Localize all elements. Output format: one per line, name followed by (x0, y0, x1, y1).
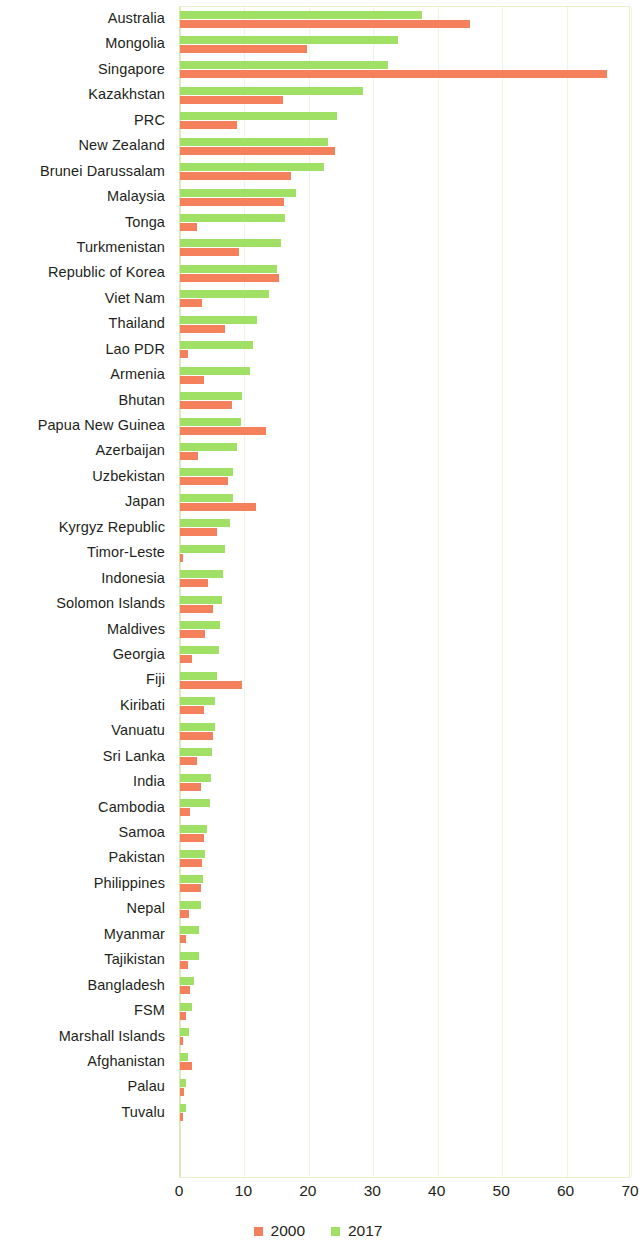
bar-2000 (180, 96, 283, 104)
bar-row (180, 618, 629, 643)
bar-2017 (180, 901, 201, 909)
bar-row (180, 414, 629, 439)
bar-2017 (180, 1003, 192, 1011)
bar-2000 (180, 1012, 186, 1020)
bar-2017 (180, 316, 257, 324)
bar-2017 (180, 952, 199, 960)
bar-2017 (180, 697, 215, 705)
x-tick-label: 20 (299, 1182, 316, 1200)
bar-2017 (180, 748, 212, 756)
legend-item-2000[interactable]: 2000 (254, 1222, 305, 1240)
bar-2017 (180, 36, 398, 44)
legend-label: 2017 (348, 1222, 382, 1240)
legend-item-2017[interactable]: 2017 (331, 1222, 382, 1240)
bar-row (180, 872, 629, 897)
bar-2017 (180, 596, 222, 604)
x-tick-label: 50 (493, 1182, 510, 1200)
bar-row (180, 567, 629, 592)
bar-2017 (180, 875, 203, 883)
bar-2017 (180, 621, 220, 629)
bar-2000 (180, 630, 205, 638)
bar-2017 (180, 468, 233, 476)
bar-2017 (180, 723, 215, 731)
category-label: Solomon Islands (0, 591, 172, 616)
x-tick-label: 60 (557, 1182, 574, 1200)
bar-2000 (180, 554, 183, 562)
category-label: Uzbekistan (0, 464, 172, 489)
square-swatch-2000 (254, 1227, 263, 1236)
gridline-70 (631, 7, 632, 1177)
bar-2000 (180, 732, 213, 740)
bar-2017 (180, 646, 219, 654)
bar-2017 (180, 672, 217, 680)
bar-2000 (180, 452, 198, 460)
bar-row (180, 363, 629, 388)
chart-legend: 20002017 (0, 1222, 636, 1240)
bar-2000 (180, 121, 237, 129)
bar-2000 (180, 1037, 183, 1045)
category-label: Papua New Guinea (0, 413, 172, 438)
bar-row (180, 643, 629, 668)
bar-row (180, 109, 629, 134)
bar-2017 (180, 825, 207, 833)
bar-2000 (180, 935, 186, 943)
bar-row (180, 1050, 629, 1075)
bar-row (180, 185, 629, 210)
bar-row (180, 694, 629, 719)
bar-row (180, 1075, 629, 1100)
category-label: Afghanistan (0, 1049, 172, 1074)
category-label: Palau (0, 1074, 172, 1099)
bar-row (180, 796, 629, 821)
bar-2017 (180, 163, 324, 171)
bar-row (180, 338, 629, 363)
bar-2000 (180, 884, 201, 892)
category-label: Tuvalu (0, 1100, 172, 1125)
bar-2000 (180, 172, 291, 180)
bar-row (180, 287, 629, 312)
bar-2000 (180, 1088, 184, 1096)
bar-2017 (180, 774, 211, 782)
bar-row (180, 821, 629, 846)
category-label: Republic of Korea (0, 260, 172, 285)
bar-2017 (180, 265, 277, 273)
bar-2017 (180, 570, 223, 578)
bar-2000 (180, 248, 239, 256)
bar-2000 (180, 350, 188, 358)
bar-2017 (180, 418, 241, 426)
bar-row (180, 948, 629, 973)
bar-row (180, 516, 629, 541)
bar-2000 (180, 376, 204, 384)
bar-2000 (180, 706, 204, 714)
bar-row (180, 846, 629, 871)
bar-2000 (180, 834, 204, 842)
bar-row (180, 389, 629, 414)
bar-2017 (180, 977, 194, 985)
bar-2000 (180, 808, 190, 816)
category-label: Cambodia (0, 795, 172, 820)
bar-row (180, 974, 629, 999)
category-label: Singapore (0, 57, 172, 82)
bar-row (180, 999, 629, 1024)
bar-2000 (180, 20, 470, 28)
bar-row (180, 236, 629, 261)
bar-2017 (180, 138, 328, 146)
x-axis-ticks: 010203040506070 (179, 1182, 630, 1208)
bar-2000 (180, 757, 197, 765)
category-label: India (0, 769, 172, 794)
bar-row (180, 211, 629, 236)
bar-row (180, 58, 629, 83)
bar-row (180, 490, 629, 515)
bar-2017 (180, 214, 285, 222)
bar-2017 (180, 112, 337, 120)
category-label: FSM (0, 998, 172, 1023)
x-tick-label: 70 (621, 1182, 638, 1200)
x-tick-label: 30 (364, 1182, 381, 1200)
category-axis-labels: AustraliaMongoliaSingaporeKazakhstanPRCN… (0, 6, 172, 1178)
bar-2000 (180, 1113, 183, 1121)
category-label: PRC (0, 108, 172, 133)
category-label: Vanuatu (0, 718, 172, 743)
bar-2000 (180, 579, 208, 587)
bar-2000 (180, 1062, 192, 1070)
bar-2000 (180, 910, 189, 918)
